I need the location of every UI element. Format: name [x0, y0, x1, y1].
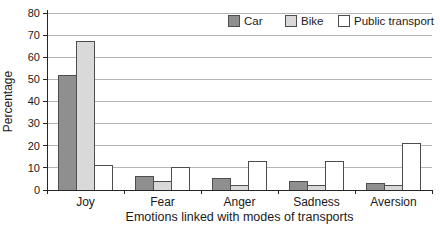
y-tick-label-80: 80	[28, 7, 40, 19]
bar-bike-anger	[231, 186, 249, 190]
y-tick-label-30: 30	[28, 117, 40, 129]
y-tick-label-40: 40	[28, 95, 40, 107]
chart-container: 01020304050607080JoyFearAngerSadnessAver…	[0, 0, 440, 235]
bar-car-joy	[59, 75, 77, 190]
bar-public-transport-fear	[172, 168, 190, 190]
category-label-joy: Joy	[76, 195, 95, 209]
bar-public-transport-joy	[95, 166, 113, 190]
bar-car-aversion	[367, 183, 385, 190]
legend-swatch-car	[228, 16, 239, 27]
legend-label-car: Car	[244, 15, 263, 27]
bar-car-sadness	[290, 181, 308, 190]
category-label-aversion: Aversion	[370, 195, 416, 209]
bar-public-transport-sadness	[326, 161, 344, 190]
y-tick-label-10: 10	[28, 162, 40, 174]
category-label-anger: Anger	[223, 195, 255, 209]
y-tick-label-20: 20	[28, 140, 40, 152]
category-label-fear: Fear	[150, 195, 175, 209]
y-tick-label-50: 50	[28, 73, 40, 85]
bar-car-anger	[213, 179, 231, 190]
y-tick-label-60: 60	[28, 51, 40, 63]
legend-label-bike: Bike	[301, 15, 323, 27]
legend-label-public-transport: Public transport	[354, 15, 435, 27]
emotion-transport-bar-chart: 01020304050607080JoyFearAngerSadnessAver…	[0, 0, 440, 235]
category-label-sadness: Sadness	[293, 195, 340, 209]
bar-bike-sadness	[308, 186, 326, 190]
y-tick-label-0: 0	[34, 184, 40, 196]
legend-swatch-bike	[285, 16, 296, 27]
x-axis-title: Emotions linked with modes of transports	[126, 210, 354, 224]
bar-bike-joy	[77, 42, 95, 190]
legend-swatch-public-transport	[338, 16, 349, 27]
bar-car-fear	[136, 177, 154, 190]
bar-public-transport-aversion	[403, 144, 421, 191]
bar-bike-fear	[154, 181, 172, 190]
bar-bike-aversion	[385, 186, 403, 190]
y-tick-label-70: 70	[28, 29, 40, 41]
bar-public-transport-anger	[249, 161, 267, 190]
y-axis-title: Percentage	[1, 70, 15, 132]
